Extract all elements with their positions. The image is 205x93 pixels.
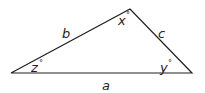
side-label-a: a bbox=[102, 78, 110, 93]
angle-label-y: y bbox=[159, 60, 168, 75]
degree-symbol-x: ° bbox=[126, 11, 130, 20]
side-label-c: c bbox=[158, 26, 165, 41]
angle-label-z: z bbox=[30, 60, 39, 75]
angle-label-x: x bbox=[117, 13, 126, 28]
triangle-diagram: b c a x ° z ° y ° bbox=[0, 0, 205, 93]
degree-symbol-y: ° bbox=[168, 59, 172, 68]
degree-symbol-z: ° bbox=[39, 59, 43, 68]
side-label-b: b bbox=[62, 26, 70, 41]
